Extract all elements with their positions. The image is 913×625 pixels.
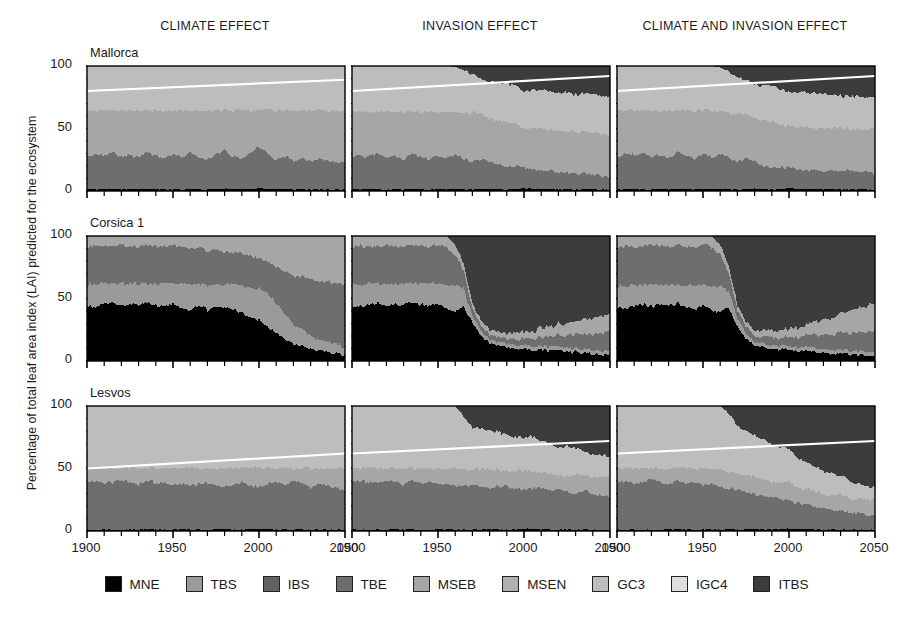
x-tick-label: 1900: [328, 540, 374, 555]
legend-item-tbs[interactable]: TBS: [186, 576, 237, 592]
row-label-corsica1: Corsica 1: [90, 215, 144, 230]
legend-item-msen[interactable]: MSEN: [502, 576, 566, 592]
legend-item-igc4[interactable]: IGC4: [671, 576, 728, 592]
area-tbe: [87, 479, 345, 530]
legend-swatch-itbs: [753, 576, 770, 592]
legend: MNETBSIBSTBEMSEBMSENGC3IGC4ITBS: [0, 576, 913, 592]
panel-mallorca-invasion: [351, 65, 611, 204]
legend-swatch-mseb: [413, 576, 430, 592]
panel-lesvos-climate: [86, 405, 346, 544]
panel-corsica1-invasion: [351, 235, 611, 374]
legend-label-tbs: TBS: [211, 577, 237, 592]
panel-mallorca-climate: [86, 65, 346, 204]
x-tick-label: 1950: [149, 540, 195, 555]
x-tick-label: 2000: [765, 540, 811, 555]
column-header-both: CLIMATE AND INVASION EFFECT: [586, 19, 904, 33]
y-tick-label: 0: [38, 351, 72, 366]
legend-label-gc3: GC3: [617, 577, 645, 592]
x-tick-label: 1900: [63, 540, 109, 555]
legend-item-itbs[interactable]: ITBS: [753, 576, 808, 592]
row-label-mallorca: Mallorca: [90, 45, 138, 60]
panel-lesvos-both: [616, 405, 876, 544]
y-tick-label: 0: [38, 521, 72, 536]
legend-swatch-mne: [105, 576, 122, 592]
legend-label-tbe: TBE: [361, 577, 387, 592]
y-tick-label: 100: [38, 396, 72, 411]
legend-label-ibs: IBS: [288, 577, 310, 592]
legend-label-itbs: ITBS: [778, 577, 808, 592]
y-tick-label: 50: [38, 289, 72, 304]
legend-swatch-tbe: [336, 576, 353, 592]
x-tick-label: 2050: [851, 540, 897, 555]
legend-label-msen: MSEN: [527, 577, 566, 592]
figure-root: Percentage of total leaf area index (LAI…: [0, 0, 913, 625]
legend-swatch-ibs: [263, 576, 280, 592]
y-tick-label: 50: [38, 119, 72, 134]
legend-swatch-msen: [502, 576, 519, 592]
y-tick-label: 0: [38, 181, 72, 196]
legend-item-mne[interactable]: MNE: [105, 576, 160, 592]
legend-item-ibs[interactable]: IBS: [263, 576, 310, 592]
x-tick-label: 1950: [414, 540, 460, 555]
x-tick-label: 2000: [500, 540, 546, 555]
row-label-lesvos: Lesvos: [90, 385, 131, 400]
x-tick-label: 2000: [235, 540, 281, 555]
panel-corsica1-climate: [86, 235, 346, 374]
legend-item-mseb[interactable]: MSEB: [413, 576, 476, 592]
legend-label-igc4: IGC4: [696, 577, 728, 592]
legend-swatch-igc4: [671, 576, 688, 592]
x-tick-label: 1900: [593, 540, 639, 555]
x-tick-label: 1950: [679, 540, 725, 555]
y-tick-label: 100: [38, 226, 72, 241]
legend-swatch-gc3: [592, 576, 609, 592]
y-tick-label: 100: [38, 56, 72, 71]
panel-corsica1-both: [616, 235, 876, 374]
legend-item-gc3[interactable]: GC3: [592, 576, 645, 592]
legend-label-mseb: MSEB: [438, 577, 476, 592]
legend-label-mne: MNE: [130, 577, 160, 592]
y-axis-label: Percentage of total leaf area index (LAI…: [25, 43, 39, 563]
y-tick-label: 50: [38, 459, 72, 474]
panel-lesvos-invasion: [351, 405, 611, 544]
panel-mallorca-both: [616, 65, 876, 204]
legend-item-tbe[interactable]: TBE: [336, 576, 387, 592]
legend-swatch-tbs: [186, 576, 203, 592]
